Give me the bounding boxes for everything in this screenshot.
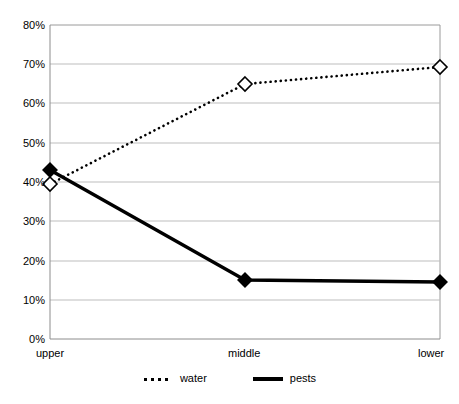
x-tick-middle: middle — [228, 348, 260, 359]
legend-swatch-dotted-line-icon — [143, 374, 173, 384]
marker-water-upper — [43, 177, 57, 191]
y-tick-30: 30% — [23, 216, 45, 227]
plot-area — [0, 0, 459, 404]
y-axis-tick-labels: 80% 70% 60% 50% 40% 30% 20% 10% 0% — [0, 0, 45, 404]
legend-entry-pests: pests — [253, 373, 316, 384]
y-tick-50: 50% — [23, 138, 45, 149]
y-tick-20: 20% — [23, 256, 45, 267]
x-tick-upper: upper — [36, 348, 64, 359]
y-tick-80: 80% — [23, 20, 45, 31]
marker-pests-middle — [238, 273, 252, 287]
x-tick-lower: lower — [418, 348, 444, 359]
marker-water-lower — [433, 60, 447, 74]
y-tick-10: 10% — [23, 295, 45, 306]
y-tick-40: 40% — [23, 177, 45, 188]
series-line-pests — [50, 170, 440, 282]
legend-label-pests: pests — [290, 373, 316, 384]
marker-water-middle — [238, 77, 252, 91]
marker-pests-upper — [43, 163, 57, 177]
y-tick-0: 0% — [29, 334, 45, 345]
legend-entry-water: water — [143, 373, 207, 384]
y-tick-70: 70% — [23, 59, 45, 70]
legend-label-water: water — [180, 373, 207, 384]
chart-legend: water pests — [0, 373, 459, 384]
y-tick-60: 60% — [23, 98, 45, 109]
marker-pests-lower — [433, 275, 447, 289]
legend-swatch-solid-line-icon — [253, 374, 283, 384]
chart-container: 80% 70% 60% 50% 40% 30% 20% 10% 0% — [0, 0, 459, 404]
